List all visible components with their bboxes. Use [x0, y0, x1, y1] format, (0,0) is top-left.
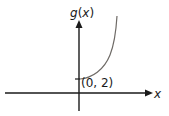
- graph: g(x) x (0, 2): [0, 0, 169, 116]
- y-axis-label: g(x): [70, 6, 94, 20]
- y-axis-arrow-icon: [76, 20, 83, 28]
- x-axis-arrow-icon: [145, 90, 153, 97]
- function-curve: [80, 16, 117, 79]
- x-axis-label: x: [153, 87, 162, 101]
- point-label: (0, 2): [81, 76, 113, 90]
